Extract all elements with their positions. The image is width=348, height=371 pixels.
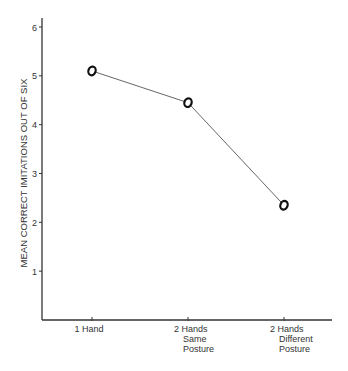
x-tick-label: 1 Hand: [74, 324, 103, 334]
svg-text:Posture: Posture: [279, 344, 310, 354]
svg-text:Same: Same: [183, 334, 207, 344]
data-point-marker: [87, 66, 97, 77]
x-tick-label: 2 HandsDifferentPosture: [270, 324, 313, 354]
svg-text:2 Hands: 2 Hands: [270, 324, 304, 334]
y-tick-label: 4: [32, 120, 37, 130]
y-tick-label: 2: [32, 218, 37, 228]
svg-text:2 Hands: 2 Hands: [174, 324, 208, 334]
series-line: [92, 71, 284, 205]
y-tick-label: 5: [32, 71, 37, 81]
y-tick-label: 3: [32, 169, 37, 179]
svg-text:1 Hand: 1 Hand: [74, 324, 103, 334]
line-chart: 123456MEAN CORRECT IMITATIONS OUT OF SIX…: [0, 0, 348, 371]
y-tick-label: 1: [32, 267, 37, 277]
svg-text:Different: Different: [279, 334, 313, 344]
y-tick-label: 6: [32, 23, 37, 33]
x-tick-label: 2 HandsSamePosture: [174, 324, 214, 354]
y-axis-label: MEAN CORRECT IMITATIONS OUT OF SIX: [18, 78, 29, 267]
svg-text:Posture: Posture: [183, 344, 214, 354]
